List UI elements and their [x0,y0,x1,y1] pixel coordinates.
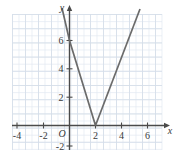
graph-figure: -4 -2 2 4 6 6 4 2 -2 O x y [0,0,179,159]
y-tick-label-2: 2 [59,92,64,103]
right-branch-line [96,9,141,126]
x-tick-label-6: 6 [145,130,150,141]
x-tick-label-neg2: -2 [39,130,47,141]
v-graph-lines [62,8,140,126]
x-axis-label: x [167,125,173,136]
grid-lines [13,14,163,150]
y-tick-label-4: 4 [59,63,64,74]
origin-label: O [58,128,65,139]
x-tick-label-2: 2 [93,130,98,141]
y-tick-label-neg2: -2 [56,141,64,152]
x-tick-label-4: 4 [119,130,124,141]
y-tick-label-6: 6 [59,35,64,46]
x-axis [12,123,170,128]
x-tick-label-neg4: -4 [13,130,21,141]
coordinate-plane-svg: -4 -2 2 4 6 6 4 2 -2 O x y [0,0,179,159]
y-axis-label: y [59,2,65,13]
